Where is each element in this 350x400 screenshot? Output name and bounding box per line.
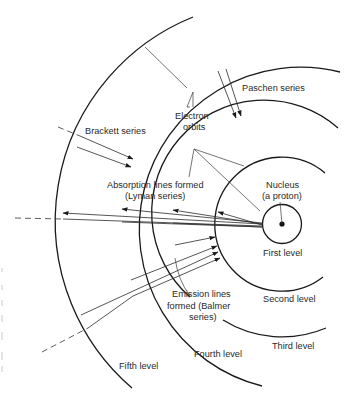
label-a-proton: (a proton) — [262, 191, 302, 201]
label-third-level: Third level — [272, 341, 314, 351]
fifth-level-orbit — [55, 17, 193, 388]
label-second-level: Second level — [263, 294, 316, 304]
label-formed-balmer: formed (Balmer — [167, 301, 230, 311]
label-fourth-level: Fourth level — [194, 349, 242, 359]
label-electron: Electron — [175, 111, 209, 121]
label-paschen-series: Paschen series — [242, 83, 305, 93]
label-brackett-series: Brackett series — [85, 126, 146, 136]
label-orbits: orbits — [183, 122, 206, 132]
label-absorption-lines: Absorption lines formed — [107, 180, 204, 190]
atom-diagram: Paschen series Electron orbits Brackett … — [0, 0, 350, 400]
label-lyman-series: (Lyman series) — [125, 191, 185, 201]
labels: Paschen series Electron orbits Brackett … — [85, 83, 316, 371]
third-level-orbit-lower — [223, 320, 326, 337]
fourth-level-orbit — [139, 67, 340, 386]
nucleus-leader — [280, 202, 282, 224]
paschen-series-lines — [218, 69, 241, 118]
lyman-series-lines — [15, 209, 262, 227]
label-first-level: First level — [263, 248, 302, 258]
label-nucleus: Nucleus — [266, 180, 300, 190]
label-fifth-level: Fifth level — [119, 361, 158, 371]
label-emission-lines: Emission lines — [172, 289, 231, 299]
second-level-orbit — [215, 157, 325, 291]
label-series: series) — [189, 312, 217, 322]
